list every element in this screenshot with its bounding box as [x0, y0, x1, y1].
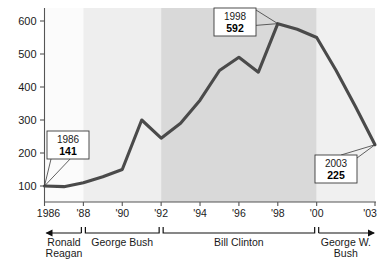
y-tick-label-500: 500 [18, 48, 36, 60]
x-tick-label-1994: '94 [193, 207, 207, 219]
callout-1998-year: 1998 [224, 11, 247, 22]
callout-2003-value: 225 [327, 169, 345, 181]
era-george-w-bush-label-2: Bush [334, 247, 358, 259]
y-tick-label-400: 400 [18, 81, 36, 93]
band-clinton [161, 8, 317, 202]
x-tick-label-2000: '00 [310, 207, 324, 219]
y-tick-label-100: 100 [18, 180, 36, 192]
band-bush-sr [83, 8, 161, 202]
x-tick-label-1990: '90 [115, 207, 129, 219]
y-tick-label-300: 300 [18, 114, 36, 126]
chart-canvas: 100200300400500600 1986'88'90'92'94'96'9… [0, 0, 385, 271]
callout-1998-value: 592 [226, 22, 244, 34]
callout-2003-year: 2003 [325, 158, 348, 169]
era-ronald-reagan-label-2: Reagan [46, 247, 83, 259]
presidential-timeline-line-chart: 100200300400500600 1986'88'90'92'94'96'9… [0, 0, 385, 271]
era-george-bush-label-1: George Bush [91, 236, 153, 248]
x-tick-label-1986: 1986 [37, 207, 61, 219]
y-tick-label-200: 200 [18, 147, 36, 159]
x-tick-label-1996: '96 [232, 207, 246, 219]
callout-1986-year: 1986 [57, 134, 80, 145]
x-tick-label-1988: '88 [77, 207, 91, 219]
y-tick-label-600: 600 [18, 15, 36, 27]
band-reagan [45, 8, 84, 202]
era-bill-clinton-label-1: Bill Clinton [214, 236, 264, 248]
x-tick-label-1998: '98 [271, 207, 285, 219]
x-tick-label-2003: '03 [363, 207, 377, 219]
callout-1986-value: 141 [59, 145, 77, 157]
x-tick-label-1992: '92 [154, 207, 168, 219]
